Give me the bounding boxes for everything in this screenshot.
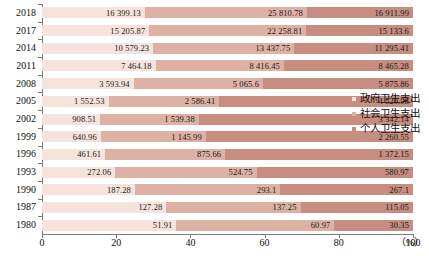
bar-value-label: 30.35 <box>389 221 409 230</box>
bar-value-label: 13 437.75 <box>255 44 290 53</box>
bar-value-label: 11 295.41 <box>374 44 409 53</box>
bar-segment: 15 133.6 <box>306 25 413 36</box>
bar-segment: 10 579.23 <box>42 43 153 54</box>
bar-row: 16 399.1325 810.7816 911.99 <box>42 7 413 18</box>
y-tick <box>38 199 42 200</box>
y-tick-label-1999: 1999 <box>0 132 36 142</box>
bar-value-label: 5 875.86 <box>378 79 409 88</box>
bar-value-label: 16 399.13 <box>106 9 141 18</box>
bar-segment: 8 465.28 <box>284 60 413 71</box>
bar-segment: 25 810.78 <box>145 7 307 18</box>
bar-value-label: 524.75 <box>229 168 253 177</box>
bar-value-label: 16 911.99 <box>374 9 409 18</box>
bar-segment: 1 145.99 <box>101 131 206 142</box>
x-tick-label-80: 80 <box>334 238 344 248</box>
bar-value-label: 2 586.41 <box>185 97 216 106</box>
y-tick <box>38 22 42 23</box>
bar-value-label: 8 416.45 <box>249 62 280 71</box>
x-tick-label-0: 0 <box>40 238 45 248</box>
y-tick-label-2002: 2002 <box>0 114 36 124</box>
legend-label: 政府卫生支出 <box>360 93 420 104</box>
bar-value-label: 15 133.6 <box>378 26 409 35</box>
x-tick-label-40: 40 <box>185 238 195 248</box>
bar-segment: 127.28 <box>42 202 166 213</box>
bar-value-label: 5 065.6 <box>233 79 259 88</box>
legend-swatch-icon <box>352 97 356 101</box>
y-tick-label-1990: 1990 <box>0 185 36 195</box>
legend-label: 社会卫生支出 <box>360 108 420 119</box>
bar-value-label: 3 593.94 <box>99 79 130 88</box>
bar-segment: 187.28 <box>42 184 135 195</box>
bar-segment: 1 372.15 <box>225 149 413 160</box>
bar-segment: 11 295.41 <box>294 43 413 54</box>
bar-row: 272.06524.75580.97 <box>42 167 413 178</box>
legend-item[interactable]: 个人卫生支出 <box>352 121 429 136</box>
bar-value-label: 25 810.78 <box>268 9 303 18</box>
y-tick <box>38 146 42 147</box>
bar-segment: 5 065.6 <box>134 78 263 89</box>
y-tick <box>38 181 42 182</box>
bar-value-label: 15 205.87 <box>110 26 145 35</box>
bar-value-label: 461.61 <box>77 150 101 159</box>
bar-segment: 5 875.86 <box>263 78 413 89</box>
y-tick <box>38 4 42 5</box>
bar-segment: 60.97 <box>176 220 334 231</box>
y-tick-label-2011: 2011 <box>0 61 36 71</box>
x-tick-label-20: 20 <box>111 238 121 248</box>
bar-segment: 22 258.81 <box>149 25 306 36</box>
y-tick-label-2005: 2005 <box>0 96 36 106</box>
y-tick-label-2018: 2018 <box>0 8 36 18</box>
bar-value-label: 1 552.53 <box>74 97 105 106</box>
bar-segment: 640.96 <box>42 131 101 142</box>
bar-row: 127.28137.25115.05 <box>42 202 413 213</box>
bar-row: 51.9160.9730.35 <box>42 220 413 231</box>
bar-value-label: 875.66 <box>197 150 221 159</box>
x-tick-label-60: 60 <box>260 238 270 248</box>
bar-segment: 293.1 <box>135 184 280 195</box>
bar-segment: 30.35 <box>334 220 413 231</box>
bar-value-label: 1 145.99 <box>171 132 202 141</box>
bar-value-label: 640.96 <box>73 132 97 141</box>
y-tick-label-2014: 2014 <box>0 43 36 53</box>
y-tick <box>38 39 42 40</box>
bar-value-label: 51.91 <box>153 221 173 230</box>
bar-segment: 16 911.99 <box>307 7 413 18</box>
bar-segment: 461.61 <box>42 149 105 160</box>
bar-segment: 524.75 <box>115 167 256 178</box>
bar-row: 461.61875.661 372.15 <box>42 149 413 160</box>
bar-segment: 7 464.18 <box>42 60 156 71</box>
bar-segment: 272.06 <box>42 167 115 178</box>
bar-row: 187.28293.1267.1 <box>42 184 413 195</box>
y-tick <box>38 110 42 111</box>
y-tick-label-2008: 2008 <box>0 79 36 89</box>
bar-segment: 267.1 <box>280 184 413 195</box>
bar-value-label: 580.97 <box>385 168 409 177</box>
y-tick <box>38 216 42 217</box>
bar-value-label: 60.97 <box>311 221 331 230</box>
y-tick-label-2017: 2017 <box>0 26 36 36</box>
y-tick <box>38 57 42 58</box>
y-tick-label-1993: 1993 <box>0 167 36 177</box>
y-tick-label-1996: 1996 <box>0 149 36 159</box>
stacked-bar-chart: 16 399.1325 810.7816 911.9915 205.8722 2… <box>0 0 429 260</box>
bar-segment: 137.25 <box>166 202 300 213</box>
bar-value-label: 137.25 <box>273 203 297 212</box>
bar-value-label: 7 464.18 <box>121 62 152 71</box>
chart-legend: 政府卫生支出社会卫生支出个人卫生支出 <box>352 91 429 136</box>
legend-item[interactable]: 社会卫生支出 <box>352 106 429 121</box>
bar-segment: 15 205.87 <box>42 25 149 36</box>
bar-segment: 2 586.41 <box>109 96 220 107</box>
bar-segment: 16 399.13 <box>42 7 145 18</box>
bar-value-label: 115.05 <box>385 203 409 212</box>
bar-value-label: 187.28 <box>107 186 131 195</box>
bar-segment: 1 539.38 <box>100 114 199 125</box>
bar-value-label: 1 372.15 <box>378 150 409 159</box>
bar-row: 7 464.188 416.458 465.28 <box>42 60 413 71</box>
bar-value-label: 908.51 <box>72 115 96 124</box>
legend-item[interactable]: 政府卫生支出 <box>352 91 429 106</box>
legend-label: 个人卫生支出 <box>360 123 420 134</box>
y-tick-label-1980: 1980 <box>0 220 36 230</box>
bar-segment: 908.51 <box>42 114 100 125</box>
bar-segment: 115.05 <box>301 202 413 213</box>
bar-row: 15 205.8722 258.8115 133.6 <box>42 25 413 36</box>
